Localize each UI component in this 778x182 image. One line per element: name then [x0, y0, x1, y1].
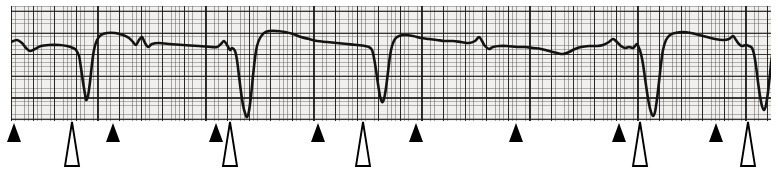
hollow-arrow-marker-4: [630, 121, 650, 168]
solid-arrowhead-marker-4: [310, 123, 326, 143]
solid-arrowhead-marker-2: [105, 123, 121, 143]
marker-annotation-row: [0, 121, 778, 182]
ecg-grid-paper: [11, 6, 771, 121]
ecg-waveform-path: [11, 31, 771, 117]
solid-arrowhead-marker-5: [408, 123, 424, 143]
hollow-arrow-marker-2: [220, 121, 240, 168]
ecg-rhythm-strip-figure: [0, 0, 778, 182]
solid-arrowhead-marker-8: [708, 123, 724, 143]
ecg-waveform-trace: [11, 6, 771, 121]
solid-arrowhead-marker-7: [611, 123, 627, 143]
solid-arrowhead-marker-1: [6, 123, 22, 143]
solid-arrowhead-marker-6: [508, 123, 524, 143]
hollow-arrow-marker-3: [353, 121, 373, 168]
hollow-arrow-marker-1: [62, 121, 82, 168]
hollow-arrow-marker-5: [738, 121, 758, 168]
